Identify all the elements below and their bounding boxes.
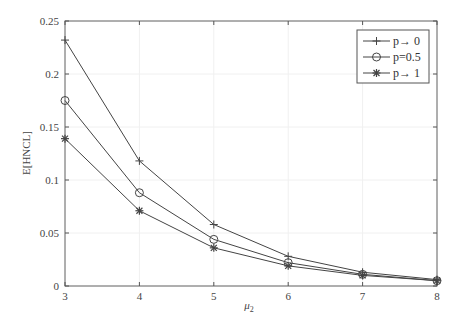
y-tick-label: 0 — [54, 280, 60, 292]
y-tick-label: 0.05 — [40, 227, 60, 239]
star-marker — [210, 244, 218, 252]
legend-label: p=0.5 — [393, 50, 421, 64]
series-2 — [61, 135, 441, 285]
star-marker — [61, 135, 69, 143]
x-tick-label: 4 — [137, 290, 143, 302]
x-axis-label: μ2 — [243, 299, 254, 314]
star-marker — [433, 277, 441, 285]
x-tick-label: 3 — [62, 290, 68, 302]
line-chart: 34567800.050.10.150.20.25 E[HNCL] μ2 p→ … — [0, 0, 462, 329]
star-marker — [284, 262, 292, 270]
series-line — [65, 101, 437, 281]
star-marker — [373, 69, 381, 77]
star-marker — [135, 207, 143, 215]
y-axis-label: E[HNCL] — [20, 131, 32, 175]
x-tick-label: 6 — [285, 290, 291, 302]
y-tick-label: 0.1 — [45, 174, 59, 186]
x-tick-label: 7 — [360, 290, 366, 302]
star-marker — [359, 271, 367, 279]
x-tick-label: 8 — [434, 290, 440, 302]
y-tick-label: 0.2 — [45, 68, 59, 80]
x-axis-label-sub: 2 — [250, 305, 254, 314]
legend-label: p→ 1 — [393, 66, 420, 80]
x-tick-label: 5 — [211, 290, 217, 302]
y-tick-label: 0.15 — [40, 121, 60, 133]
y-tick-label: 0.25 — [40, 15, 60, 27]
legend: p→ 0p=0.5p→ 1 — [357, 30, 429, 83]
legend-label: p→ 0 — [393, 34, 420, 48]
series-line — [65, 139, 437, 281]
